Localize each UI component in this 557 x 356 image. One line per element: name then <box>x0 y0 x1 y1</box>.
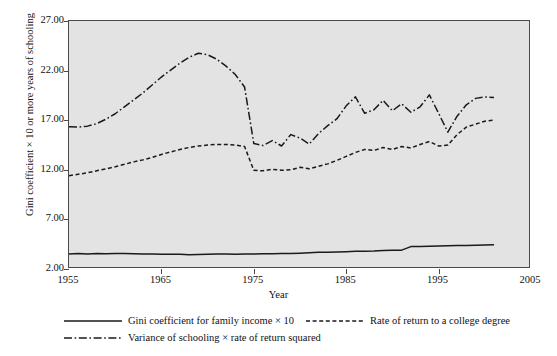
y-axis-tick-mark <box>64 21 69 22</box>
x-axis-tick-label: 2005 <box>500 274 557 285</box>
x-axis-tick-label: 1965 <box>130 274 190 285</box>
legend-item-2: Rate of return to a college degree <box>306 315 510 326</box>
y-axis-ticks <box>69 21 70 269</box>
legend-line-swatch <box>64 333 122 343</box>
y-axis-tick-mark <box>64 120 69 121</box>
legend-item-label: Rate of return to a college degree <box>370 315 510 326</box>
x-axis-title: Year <box>0 289 557 300</box>
legend-item-label: Gini coefficient for family income × 10 <box>128 315 294 326</box>
plot-area <box>68 20 530 268</box>
x-axis-tick-label: 1955 <box>38 274 98 285</box>
chart-figure: 2.007.0012.0017.0022.0027.00 Gini coeffi… <box>0 0 557 356</box>
legend-item-3: Variance of schooling × rate of return s… <box>64 332 321 343</box>
x-axis-tick-label: 1995 <box>408 274 468 285</box>
x-axis-tick-label: 1975 <box>223 274 283 285</box>
legend-row-2: Variance of schooling × rate of return s… <box>0 329 557 346</box>
legend-row-1: Gini coefficient for family income × 10R… <box>0 312 557 329</box>
series-line-2 <box>69 120 494 176</box>
legend-line-swatch <box>306 316 364 326</box>
y-axis-tick-labels: 2.007.0012.0017.0022.0027.00 <box>14 0 64 356</box>
chart-canvas <box>69 21 531 269</box>
y-axis-title: Gini coefficient × 10 or more years of s… <box>24 0 35 249</box>
y-axis-tick-mark <box>64 219 69 220</box>
series-line-1 <box>69 245 494 255</box>
chart-legend: Gini coefficient for family income × 10R… <box>0 312 557 346</box>
legend-item-label: Variance of schooling × rate of return s… <box>128 332 321 343</box>
legend-line-swatch <box>64 316 122 326</box>
y-axis-tick-label: 2.00 <box>18 263 64 273</box>
y-axis-tick-mark <box>64 170 69 171</box>
series-line-3 <box>69 53 494 146</box>
legend-item-1: Gini coefficient for family income × 10 <box>64 315 294 326</box>
x-axis-tick-label: 1985 <box>315 274 375 285</box>
y-axis-tick-mark <box>64 71 69 72</box>
